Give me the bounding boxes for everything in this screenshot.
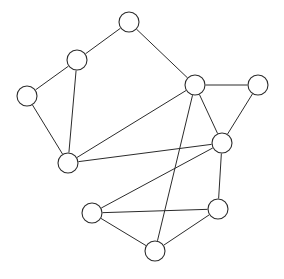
graph-node-n9[interactable] — [208, 199, 228, 219]
graph-edge — [137, 29, 188, 78]
graph-node-n6[interactable] — [212, 133, 232, 153]
graph-edge — [85, 28, 120, 54]
graph-node-n10[interactable] — [145, 241, 165, 261]
graph-node-n3[interactable] — [17, 86, 37, 106]
graph-node-n1[interactable] — [119, 12, 139, 32]
graph-edge — [199, 95, 217, 134]
graph-edge — [101, 218, 146, 245]
graph-node-n5[interactable] — [248, 75, 268, 95]
graph-edge — [36, 66, 69, 90]
graph-edge — [69, 70, 76, 152]
graph-edge — [32, 105, 62, 154]
graph-edge — [164, 215, 210, 245]
graph-edge — [102, 209, 207, 212]
graph-edge — [77, 91, 186, 158]
graph-node-n4[interactable] — [185, 75, 205, 95]
graph-node-n2[interactable] — [67, 50, 87, 70]
graph-edge — [219, 153, 222, 198]
graph-node-n8[interactable] — [82, 203, 102, 223]
graph-diagram — [0, 0, 284, 279]
node-layer — [17, 12, 268, 261]
graph-node-n7[interactable] — [58, 153, 78, 173]
graph-edge — [228, 94, 253, 134]
